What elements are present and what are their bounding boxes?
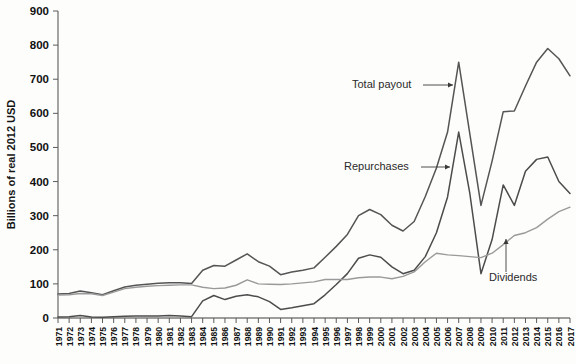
y-tick-label: 100 — [30, 278, 49, 290]
chart-figure: 0100200300400500600700800900197119721973… — [0, 0, 576, 364]
x-tick-label: 1993 — [298, 327, 308, 346]
x-tick-label: 2013 — [521, 327, 531, 346]
x-tick-label: 1986 — [220, 327, 230, 346]
x-tick-label: 1975 — [98, 327, 108, 346]
y-tick-label: 0 — [43, 312, 49, 324]
x-tick-label: 1976 — [109, 327, 119, 346]
y-tick-label: 700 — [30, 73, 49, 85]
x-tick-label: 2014 — [532, 327, 542, 346]
x-tick-label: 2002 — [399, 327, 409, 346]
x-tick-label: 2004 — [421, 327, 431, 346]
chart-canvas: 0100200300400500600700800900197119721973… — [0, 0, 576, 364]
x-tick-label: 1989 — [254, 327, 264, 346]
y-tick-label: 300 — [30, 210, 49, 222]
x-tick-label: 1990 — [265, 327, 275, 346]
x-tick-label: 2006 — [443, 327, 453, 346]
annotation-arrow-repurchases — [445, 164, 450, 169]
x-tick-label: 1982 — [176, 327, 186, 346]
x-tick-label: 1997 — [343, 327, 353, 346]
x-tick-label: 1983 — [187, 327, 197, 346]
annotation-arrow-total-payout — [448, 82, 453, 87]
y-tick-label: 900 — [30, 5, 49, 17]
x-tick-label: 1973 — [76, 327, 86, 346]
x-tick-label: 1978 — [131, 327, 141, 346]
series-line-total-payout — [58, 49, 570, 295]
y-tick-label: 600 — [30, 107, 49, 119]
annotation-label-repurchases: Repurchases — [344, 160, 409, 172]
y-axis-title: Billions of real 2012 USD — [5, 100, 17, 230]
x-tick-label: 2000 — [376, 327, 386, 346]
annotation-label-total-payout: Total payout — [352, 78, 411, 90]
x-tick-label: 1984 — [198, 327, 208, 346]
x-tick-label: 2008 — [465, 327, 475, 346]
y-tick-label: 500 — [30, 141, 49, 153]
x-tick-label: 1971 — [54, 327, 64, 346]
x-tick-label: 1974 — [87, 327, 97, 346]
x-tick-label: 2016 — [554, 327, 564, 346]
x-tick-label: 2015 — [543, 327, 553, 346]
y-tick-label: 200 — [30, 244, 49, 256]
x-tick-label: 1980 — [154, 327, 164, 346]
x-tick-label: 2005 — [432, 327, 442, 346]
x-tick-label: 2011 — [499, 327, 509, 346]
x-tick-label: 2012 — [510, 327, 520, 346]
x-tick-label: 1979 — [143, 327, 153, 346]
x-tick-label: 1988 — [243, 327, 253, 346]
x-tick-label: 1985 — [209, 327, 219, 346]
x-tick-label: 2001 — [387, 327, 397, 346]
annotation-label-dividends: Dividends — [489, 271, 538, 283]
x-tick-label: 1992 — [287, 327, 297, 346]
x-tick-label: 2003 — [410, 327, 420, 346]
x-tick-label: 1995 — [321, 327, 331, 346]
x-tick-label: 2010 — [488, 327, 498, 346]
x-tick-label: 1999 — [365, 327, 375, 346]
x-tick-label: 2007 — [454, 327, 464, 346]
x-tick-label: 1972 — [65, 327, 75, 346]
x-tick-label: 1994 — [310, 327, 320, 346]
x-tick-label: 1981 — [165, 327, 175, 346]
series-line-repurchases — [58, 132, 570, 317]
x-tick-label: 2017 — [566, 327, 576, 346]
x-tick-label: 1991 — [276, 327, 286, 346]
x-tick-label: 1996 — [332, 327, 342, 346]
x-tick-label: 2009 — [476, 327, 486, 346]
x-tick-label: 1977 — [120, 327, 130, 346]
x-tick-label: 1998 — [354, 327, 364, 346]
y-tick-label: 400 — [30, 176, 49, 188]
y-tick-label: 800 — [30, 39, 49, 51]
x-tick-label: 1987 — [232, 327, 242, 346]
